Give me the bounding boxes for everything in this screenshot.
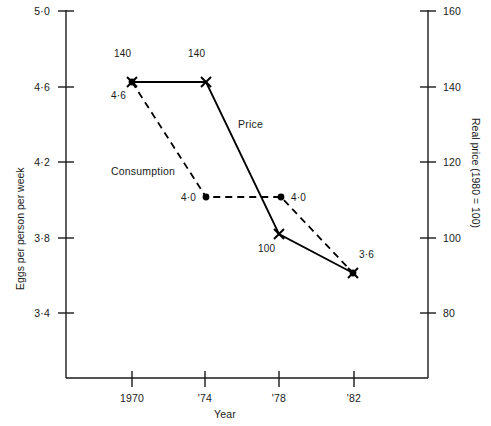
right-tick-label-140: 140 xyxy=(443,81,483,93)
point-label-consumption-1978: 4·0 xyxy=(291,192,306,203)
x-tick-label-1970: 1970 xyxy=(107,392,157,404)
point-label-consumption-1974: 4·0 xyxy=(181,192,196,203)
series-annotation-price: Price xyxy=(238,118,263,130)
point-label-consumption-1982: 3·6 xyxy=(359,249,374,260)
right-tick-label-100: 100 xyxy=(443,232,483,244)
x-tick-label-78: '78 xyxy=(254,392,304,404)
series-line-consumption xyxy=(132,82,353,273)
left-tick-label-3-4: 3·4 xyxy=(10,307,50,319)
point-label-price-1970: 140 xyxy=(114,48,131,59)
x-axis-title: Year xyxy=(200,408,250,420)
series-line-price xyxy=(132,82,353,273)
x-tick-label-82: '82 xyxy=(329,392,379,404)
marker-consumption-1970 xyxy=(129,79,136,86)
left-tick-label-4-6: 4·6 xyxy=(10,81,50,93)
right-tick-label-160: 160 xyxy=(443,5,483,17)
point-label-consumption-1970: 4·6 xyxy=(111,90,126,101)
point-label-price-1974: 140 xyxy=(188,48,205,59)
series-annotation-consumption: Consumption xyxy=(111,165,175,177)
chart-figure: 5·0 4·6 4·2 3·8 3·4 160 140 120 100 80 1… xyxy=(0,0,491,426)
marker-consumption-1978 xyxy=(278,194,285,201)
right-axis-title: Real price (1980 = 100) xyxy=(470,118,482,228)
right-tick-label-80: 80 xyxy=(443,307,483,319)
marker-consumption-1974 xyxy=(203,194,210,201)
x-tick-label-74: '74 xyxy=(180,392,230,404)
marker-price-1978 xyxy=(274,229,284,239)
left-axis-title: Eggs per person per week xyxy=(14,167,26,290)
point-label-price-1978: 100 xyxy=(258,243,275,254)
marker-consumption-1982 xyxy=(350,270,357,277)
left-tick-label-5-0: 5·0 xyxy=(10,5,50,17)
chart-plot-area xyxy=(0,0,491,426)
